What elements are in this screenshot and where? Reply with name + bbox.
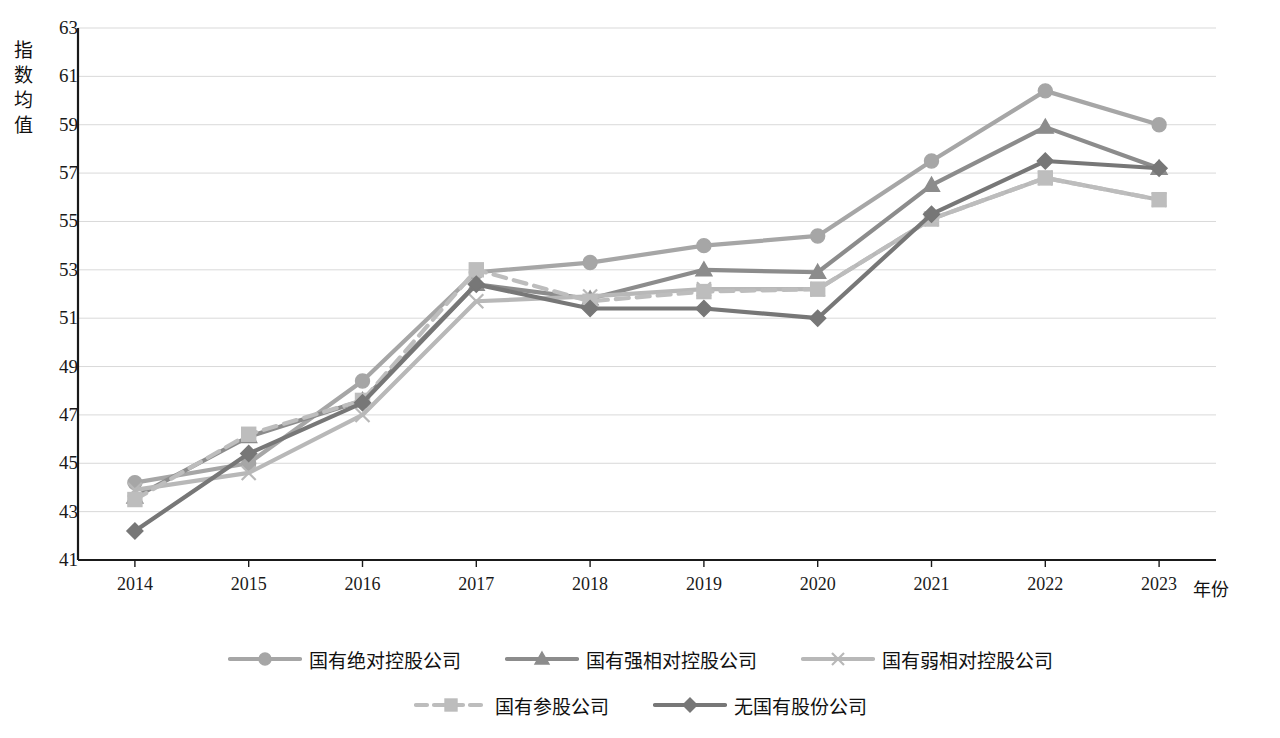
data-point-square (697, 285, 711, 299)
legend-item-label: 国有参股公司 (495, 692, 609, 719)
series-line (135, 127, 1159, 497)
data-point-triangle (1037, 119, 1053, 133)
data-point-diamond (696, 301, 712, 317)
legend-key-icon (653, 695, 727, 715)
data-point-square (469, 263, 483, 277)
data-point-circle (925, 154, 939, 168)
legend-key-icon (801, 649, 875, 669)
legend-item-2[interactable]: 国有弱相对控股公司 (801, 646, 1053, 673)
data-point-square (1152, 193, 1166, 207)
data-point-diamond (1037, 153, 1053, 169)
data-point-circle (259, 653, 271, 665)
data-point-circle (811, 229, 825, 243)
series-2 (128, 171, 1166, 497)
line-chart: 指 数 均 值 414345474951535557596163 2014201… (0, 0, 1280, 738)
chart-legend: 国有绝对控股公司 国有强相对控股公司 国有弱相对控股公司 国有参股公司 无国有股… (0, 636, 1280, 728)
data-point-square (811, 282, 825, 296)
data-point-square (128, 493, 142, 507)
series-line (135, 178, 1159, 490)
legend-item-label: 国有弱相对控股公司 (882, 646, 1053, 673)
plot-area (0, 0, 1280, 738)
legend-item-0[interactable]: 国有绝对控股公司 (228, 646, 461, 673)
legend-item-4[interactable]: 无国有股份公司 (653, 692, 867, 719)
legend-item-3[interactable]: 国有参股公司 (414, 692, 609, 719)
legend-row-2: 国有参股公司 无国有股份公司 (0, 682, 1280, 728)
data-point-circle (1038, 84, 1052, 98)
legend-item-label: 国有绝对控股公司 (309, 646, 461, 673)
legend-item-label: 无国有股份公司 (734, 692, 867, 719)
legend-key-icon (505, 649, 579, 669)
legend-key-icon (414, 695, 488, 715)
legend-item-1[interactable]: 国有强相对控股公司 (505, 646, 757, 673)
series-line (135, 161, 1159, 531)
data-point-square (242, 427, 256, 441)
data-point-circle (697, 239, 711, 253)
data-point-square (445, 699, 457, 711)
data-point-diamond (683, 698, 697, 712)
data-point-circle (583, 256, 597, 270)
data-point-circle (356, 374, 370, 388)
legend-row-1: 国有绝对控股公司 国有强相对控股公司 国有弱相对控股公司 (0, 636, 1280, 682)
data-point-circle (1152, 118, 1166, 132)
series-4 (127, 153, 1167, 539)
legend-key-icon (228, 649, 302, 669)
legend-item-label: 国有强相对控股公司 (586, 646, 757, 673)
data-point-square (1038, 171, 1052, 185)
